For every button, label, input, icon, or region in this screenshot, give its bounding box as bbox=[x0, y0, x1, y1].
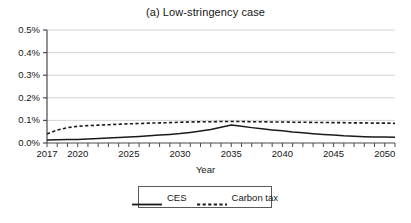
chart-legend: CES Carbon tax bbox=[138, 186, 272, 208]
x-tick-label: 2020 bbox=[58, 148, 98, 159]
legend-label-ces: CES bbox=[167, 192, 187, 203]
x-axis-title: Year bbox=[0, 164, 411, 175]
x-tick-label: 2025 bbox=[109, 148, 149, 159]
y-tick-label: 0.0% bbox=[0, 137, 40, 148]
x-axis-ticks bbox=[47, 143, 395, 147]
legend-label-carbon-tax: Carbon tax bbox=[232, 192, 278, 203]
legend-swatch-solid-icon bbox=[132, 194, 162, 201]
x-tick-label: 2030 bbox=[160, 148, 200, 159]
legend-item-carbon-tax: Carbon tax bbox=[197, 192, 278, 203]
legend-item-ces: CES bbox=[132, 192, 187, 203]
gridlines bbox=[47, 30, 395, 120]
y-tick-label: 0.1% bbox=[0, 114, 40, 125]
x-tick-label: 2050 bbox=[365, 148, 405, 159]
legend-swatch-dotted-icon bbox=[197, 194, 227, 201]
x-tick-label: 2040 bbox=[262, 148, 302, 159]
x-tick-label: 2035 bbox=[211, 148, 251, 159]
y-tick-label: 0.5% bbox=[0, 24, 40, 35]
x-tick-label: 2045 bbox=[314, 148, 354, 159]
y-tick-label: 0.3% bbox=[0, 69, 40, 80]
y-tick-label: 0.4% bbox=[0, 47, 40, 58]
chart-figure: (a) Low-stringency case 0.0%0.1%0.2%0.3%… bbox=[0, 0, 411, 223]
y-tick-label: 0.2% bbox=[0, 92, 40, 103]
series-line-ces bbox=[47, 125, 395, 140]
